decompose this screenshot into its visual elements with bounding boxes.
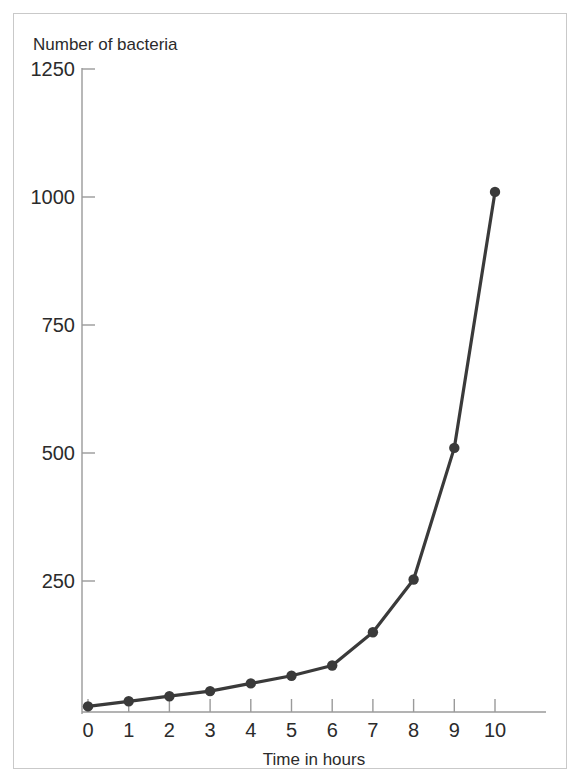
y-tick-label-500: 500	[42, 442, 75, 464]
y-tick-label-1000: 1000	[31, 186, 76, 208]
data-point-3	[205, 686, 215, 696]
x-tick-label-4: 4	[245, 719, 256, 741]
series-markers-group	[83, 187, 500, 712]
y-tick-label-1250: 1250	[31, 58, 76, 80]
x-tick-label-6: 6	[327, 719, 338, 741]
data-point-7	[368, 627, 378, 637]
data-point-2	[164, 691, 174, 701]
data-point-6	[327, 660, 337, 670]
y-tick-label-750: 750	[42, 314, 75, 336]
y-tick-label-250: 250	[42, 570, 75, 592]
data-point-4	[246, 678, 256, 688]
data-point-0	[83, 701, 93, 711]
x-tick-label-3: 3	[205, 719, 216, 741]
chart-root: Number of bacteria 25050075010001250 012…	[0, 0, 581, 784]
x-tick-label-0: 0	[82, 719, 93, 741]
y-axis-ticks: 25050075010001250	[31, 58, 96, 592]
data-point-10	[490, 187, 500, 197]
x-tick-label-5: 5	[286, 719, 297, 741]
data-point-1	[124, 696, 134, 706]
x-tick-label-9: 9	[449, 719, 460, 741]
data-point-5	[286, 671, 296, 681]
x-axis-ticks: 012345678910	[82, 699, 506, 741]
series-line-bacteria	[88, 192, 495, 707]
x-axis-title: Time in hours	[263, 750, 365, 769]
bacteria-growth-line-chart: Number of bacteria 25050075010001250 012…	[0, 0, 581, 784]
x-tick-label-7: 7	[367, 719, 378, 741]
x-tick-label-10: 10	[484, 719, 506, 741]
y-axis-title: Number of bacteria	[33, 35, 178, 54]
x-tick-label-1: 1	[123, 719, 134, 741]
x-tick-label-8: 8	[408, 719, 419, 741]
data-point-8	[408, 574, 418, 584]
x-tick-label-2: 2	[164, 719, 175, 741]
data-point-9	[449, 443, 459, 453]
